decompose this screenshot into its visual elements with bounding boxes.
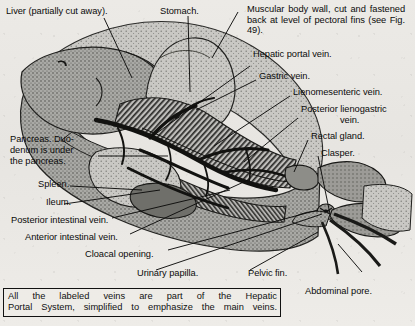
label-pancreas-line1: Pancreas. Duo- [10, 134, 74, 145]
caption-box: All the labeled veins are part of the He… [3, 288, 281, 317]
label-hepatic-portal-vein: Hepatic portal vein. [253, 49, 332, 60]
label-cloacal-opening: Cloacal opening. [85, 249, 153, 260]
label-clasper: Clasper. [321, 148, 355, 159]
label-liver: Liver (partially cut away). [6, 6, 107, 17]
label-abdominal-pore: Abdominal pore. [305, 286, 372, 297]
label-urinary-papilla: Urinary papilla. [137, 268, 198, 279]
label-posterior-lienogastric-vein-line2: vein. [340, 115, 359, 126]
label-pancreas-line3: the pancreas. [10, 156, 66, 167]
label-anterior-intestinal-vein: Anterior intestinal vein. [25, 232, 118, 243]
caption-line-1: All the labeled veins are part of the He… [8, 291, 277, 302]
label-posterior-intestinal-vein: Posterior intestinal vein. [11, 215, 108, 226]
caption-line-2: Portal System, simplified to emphasize t… [8, 302, 277, 313]
label-pelvic-fin: Pelvic fin. [248, 268, 287, 279]
label-muscular-body-wall: Muscular body wall, cut and fastened bac… [247, 4, 405, 36]
label-posterior-lienogastric-vein-line1: Posterior lienogastric [301, 104, 387, 115]
label-pancreas-line2: denum is under [10, 145, 73, 156]
label-gastric-vein: Gastric vein. [259, 71, 310, 82]
label-stomach: Stomach. [160, 6, 199, 17]
label-ileum: Ileum. [46, 197, 71, 208]
figure-page: Liver (partially cut away). Stomach. Mus… [0, 0, 415, 326]
label-lienomesenteric-vein: Lienomesenteric vein. [293, 87, 382, 98]
label-rectal-gland: Rectal gland. [311, 131, 365, 142]
label-spleen: Spleen. [38, 179, 69, 190]
